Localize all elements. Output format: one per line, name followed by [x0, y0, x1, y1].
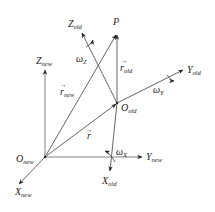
r-vector [45, 104, 116, 157]
r-label: r [87, 130, 91, 141]
origin-old-point [116, 102, 118, 104]
o-new-label: Onew [16, 153, 34, 165]
origin-new-point [44, 156, 46, 158]
y-old-label: Yold [187, 64, 202, 76]
omega-z-label: ωZ [76, 53, 87, 65]
omega-x-rotation-icon [105, 151, 115, 162]
r-new-label: rnew [60, 86, 75, 98]
z-old-label: Zold [68, 18, 83, 30]
omega-y-label: ωY [153, 84, 165, 96]
frame-transformation-diagram: Znew Ynew Xnew Onew Zold Yold Xold Oold … [0, 0, 215, 212]
z-new-label: Znew [36, 55, 53, 67]
x-old-axis [110, 103, 117, 171]
y-old-axis [117, 70, 183, 103]
y-new-label: Ynew [146, 151, 163, 163]
x-old-label: Xold [101, 175, 117, 187]
omega-x-label: ωX [116, 146, 128, 158]
x-new-label: Xnew [14, 186, 32, 198]
o-old-label: Oold [121, 102, 137, 114]
point-p-label: P [112, 16, 119, 27]
z-old-axis [82, 33, 117, 103]
